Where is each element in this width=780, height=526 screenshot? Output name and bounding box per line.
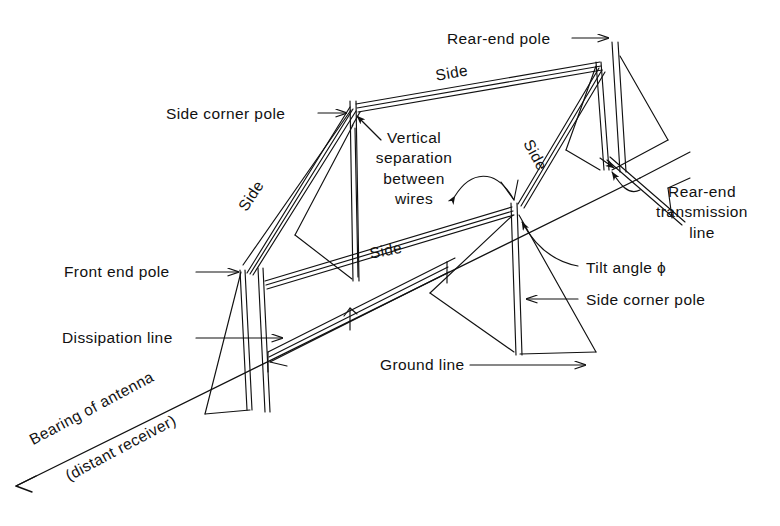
label-ground-line: Ground line xyxy=(380,355,465,375)
label-rear-end-transmission-line-2: transmission xyxy=(646,202,758,222)
figure-root: Side corner pole Rear-end pole Vertical … xyxy=(0,0,780,526)
label-rear-end-transmission-line-1: Rear-end xyxy=(646,182,758,202)
label-dissipation-line: Dissipation line xyxy=(62,328,173,348)
side-corner-pole-bottom-graphic xyxy=(430,203,596,355)
label-vertical-separation-line-3: between xyxy=(370,169,458,189)
label-side-corner-pole-bottom: Side corner pole xyxy=(586,290,705,310)
front-end-pole-graphic xyxy=(205,268,270,414)
label-vertical-separation-line-2: separation xyxy=(370,148,458,168)
label-tilt-angle: Tilt angle ϕ xyxy=(586,258,666,278)
label-vertical-separation-line-1: Vertical xyxy=(370,128,458,148)
label-rear-end-transmission-line-3: line xyxy=(646,223,758,243)
wire-side-topcorner-to-rear xyxy=(356,62,602,112)
label-rear-end-pole: Rear-end pole xyxy=(447,29,550,49)
tilt-angle-arc xyxy=(455,176,518,200)
label-front-end-pole: Front end pole xyxy=(64,262,170,282)
label-vertical-separation: Vertical separation between wires xyxy=(370,128,458,210)
label-rear-end-transmission-line: Rear-end transmission line xyxy=(646,182,758,243)
rear-end-pole-graphic xyxy=(566,42,668,172)
label-vertical-separation-line-4: wires xyxy=(370,189,458,209)
label-side-corner-pole-top: Side corner pole xyxy=(166,104,285,124)
